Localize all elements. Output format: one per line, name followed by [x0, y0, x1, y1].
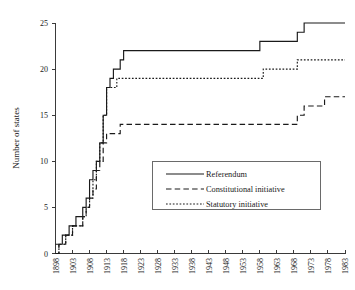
x-tick-label: 1938	[188, 258, 197, 274]
series-group	[56, 23, 346, 254]
line-chart-canvas: 0510152025 18981903190819131918192319281…	[0, 0, 355, 290]
y-tick-group: 0510152025	[40, 19, 56, 259]
legend-label-0: Referendum	[206, 170, 248, 179]
x-tick-label: 1958	[256, 258, 265, 274]
x-tick-label: 1923	[137, 258, 146, 274]
legend-label-2: Statutory initiative	[206, 200, 268, 209]
series-line-solid	[56, 23, 346, 244]
y-tick-label: 25	[40, 19, 48, 28]
x-tick-label: 1933	[171, 258, 180, 274]
x-tick-label: 1968	[290, 258, 299, 274]
y-axis-title: Number of states	[11, 107, 21, 169]
x-tick-label: 1943	[205, 258, 214, 274]
y-tick-label: 20	[40, 65, 48, 74]
y-axis-title-group: Number of states	[11, 107, 21, 169]
x-tick-label: 1903	[69, 258, 78, 274]
y-tick-label: 10	[40, 157, 48, 166]
x-tick-label: 1983	[341, 258, 350, 274]
x-tick-label: 1913	[103, 258, 112, 274]
x-tick-label: 1963	[273, 258, 282, 274]
x-tick-label: 1948	[222, 258, 231, 274]
y-axis-group: 0510152025	[40, 19, 56, 259]
x-axis-group: 1898190319081913191819231928193319381943…	[52, 250, 351, 275]
x-tick-label: 1908	[86, 258, 95, 274]
x-tick-label: 1928	[154, 258, 163, 274]
y-tick-label: 15	[40, 111, 48, 120]
x-tick-label: 1978	[324, 258, 333, 274]
x-tick-label: 1898	[52, 258, 61, 274]
y-tick-label: 5	[44, 203, 48, 212]
x-tick-label: 1973	[307, 258, 316, 274]
chart-figure: 0510152025 18981903190819131918192319281…	[0, 0, 355, 290]
chart-legend: ReferendumConstitutional initiativeStatu…	[153, 162, 321, 210]
x-tick-label: 1918	[120, 258, 129, 274]
x-tick-label: 1953	[239, 258, 248, 274]
legend-label-1: Constitutional initiative	[206, 185, 285, 194]
y-tick-label: 0	[44, 250, 48, 259]
series-line-dotted	[56, 60, 346, 254]
